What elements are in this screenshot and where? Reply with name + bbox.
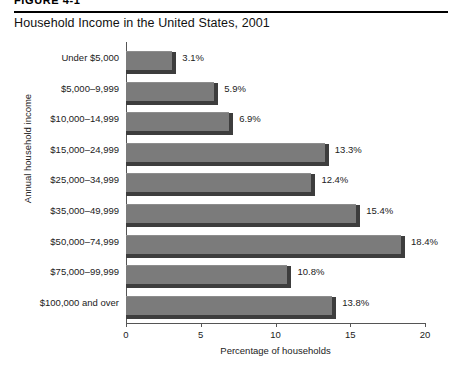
bar-category-label: $35,000–49,999 xyxy=(50,205,119,216)
bar-category-label: $75,000–99,999 xyxy=(50,266,119,277)
bar-value-label: 6.9% xyxy=(239,113,261,124)
bar-shape xyxy=(126,112,229,131)
x-tick-label: 0 xyxy=(123,329,128,340)
bar-row: $50,000–74,99918.4% xyxy=(126,230,401,261)
bar-shape xyxy=(126,265,287,284)
bar-value-label: 18.4% xyxy=(411,236,438,247)
bar-row: $75,000–99,99910.8% xyxy=(126,260,287,291)
bar-shape xyxy=(126,204,356,223)
bar-shape xyxy=(126,82,214,101)
bar-category-label: $25,000–34,999 xyxy=(50,174,119,185)
x-tick-mark xyxy=(201,323,202,327)
bar-value-label: 12.4% xyxy=(321,174,348,185)
x-tick-label: 5 xyxy=(198,329,203,340)
bar-shape xyxy=(126,143,325,162)
bar-category-label: $5,000–9,999 xyxy=(61,83,119,94)
x-tick-mark xyxy=(350,323,351,327)
bar-value-label: 13.3% xyxy=(335,144,362,155)
bar-value-label: 10.8% xyxy=(297,266,324,277)
bar-shape xyxy=(126,51,172,70)
bar-row: $25,000–34,99912.4% xyxy=(126,168,311,199)
x-tick-label: 10 xyxy=(270,329,281,340)
bar-shape xyxy=(126,296,332,315)
x-tick-mark xyxy=(425,323,426,327)
bar-category-label: Under $5,000 xyxy=(61,52,119,63)
bar-row: $35,000–49,99915.4% xyxy=(126,199,356,230)
bar-shape xyxy=(126,173,311,192)
x-tick-mark xyxy=(126,323,127,327)
bar-category-label: $10,000–14,999 xyxy=(50,113,119,124)
bar-category-label: $100,000 and over xyxy=(40,297,119,308)
y-axis-title: Annual household income xyxy=(22,84,33,214)
bar-row: $100,000 and over13.8% xyxy=(126,291,332,322)
bar-chart: Annual household income Percentage of ho… xyxy=(0,0,462,365)
bar-category-label: $15,000–24,999 xyxy=(50,144,119,155)
bar-row: $10,000–14,9996.9% xyxy=(126,107,229,138)
bar-row: Under $5,0003.1% xyxy=(126,46,172,77)
bar-value-label: 3.1% xyxy=(182,52,204,63)
bar-value-label: 15.4% xyxy=(366,205,393,216)
x-axis-title: Percentage of households xyxy=(126,345,425,356)
bar-category-label: $50,000–74,999 xyxy=(50,236,119,247)
x-tick-label: 20 xyxy=(420,329,431,340)
bar-shape xyxy=(126,235,401,254)
bar-row: $5,000–9,9995.9% xyxy=(126,77,214,108)
bar-row: $15,000–24,99913.3% xyxy=(126,138,325,169)
bar-value-label: 13.8% xyxy=(342,297,369,308)
x-tick-mark xyxy=(276,323,277,327)
bar-value-label: 5.9% xyxy=(224,83,246,94)
x-tick-label: 15 xyxy=(345,329,356,340)
